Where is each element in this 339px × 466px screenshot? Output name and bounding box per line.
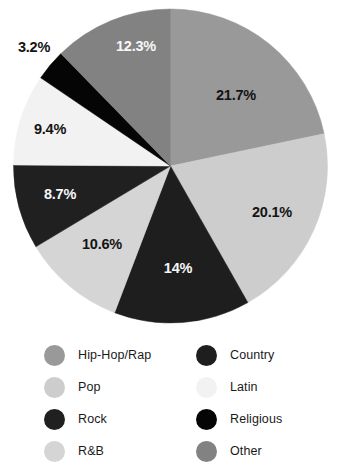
legend-swatch-circle-icon: [196, 377, 217, 398]
legend-swatch-circle-icon: [44, 441, 65, 462]
legend-item[interactable]: Other: [196, 436, 339, 466]
legend-item-label: Religious: [230, 412, 282, 426]
legend-swatch-circle-icon: [196, 409, 217, 430]
legend-item-label: Hip-Hop/Rap: [78, 348, 151, 362]
legend-item-label: Country: [230, 348, 274, 362]
legend-item[interactable]: Country: [196, 340, 339, 370]
legend-item-label: R&B: [78, 444, 104, 458]
pie-chart-svg: [0, 0, 339, 330]
legend-item-label: Pop: [78, 380, 101, 394]
legend-item[interactable]: Religious: [196, 404, 339, 434]
legend-column-left: Hip-Hop/RapPopRockR&B: [44, 340, 189, 466]
legend-item[interactable]: Latin: [196, 372, 339, 402]
legend-swatch-circle-icon: [196, 345, 217, 366]
legend-swatch-circle-icon: [44, 377, 65, 398]
legend-swatch-circle-icon: [44, 409, 65, 430]
legend-item[interactable]: Hip-Hop/Rap: [44, 340, 189, 370]
legend-column-right: CountryLatinReligiousOther: [196, 340, 339, 466]
legend-item-label: Other: [230, 444, 262, 458]
legend-swatch-circle-icon: [196, 441, 217, 462]
legend-swatch-circle-icon: [44, 345, 65, 366]
legend-item-label: Rock: [78, 412, 107, 426]
legend-item-label: Latin: [230, 380, 258, 394]
legend-item[interactable]: Rock: [44, 404, 189, 434]
pie-chart: 21.7%20.1%14%10.6%8.7%9.4%3.2%12.3%: [0, 0, 339, 330]
legend-item[interactable]: R&B: [44, 436, 189, 466]
legend-item[interactable]: Pop: [44, 372, 189, 402]
pie-slice-group: [13, 9, 327, 323]
chart-legend: Hip-Hop/RapPopRockR&B CountryLatinReligi…: [0, 334, 339, 466]
